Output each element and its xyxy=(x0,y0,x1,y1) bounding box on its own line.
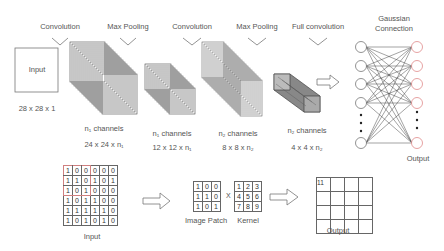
input-label: Input xyxy=(29,65,46,74)
ellipsis-dots-right xyxy=(416,111,418,129)
multiply-operator: X xyxy=(226,192,231,199)
image-patch-matrix: 1 0 0 1 1 0 1 0 1 xyxy=(193,181,221,212)
layer2-size-label: 12 x 12 x n₁ xyxy=(152,143,191,152)
arrow-right-icon xyxy=(270,189,298,205)
image-patch-label: Image Patch xyxy=(185,216,227,225)
network-edges xyxy=(366,47,412,143)
layer3-size-label: 8 x 8 x n₂ xyxy=(222,143,253,152)
operation-label-convolution-2: Convolution xyxy=(172,22,212,31)
output-nodes xyxy=(412,42,423,149)
layer3-channels-label: n₂ channels xyxy=(218,129,257,138)
operation-label-convolution-1: Convolution xyxy=(40,22,80,31)
arrow-right-icon xyxy=(143,193,170,209)
input-matrix: 1 0 0 0 0 0 1 1 0 1 0 1 1 0 1 0 0 0 1 0 … xyxy=(63,165,118,226)
feature-map-stack-3 xyxy=(202,42,262,116)
layer4-size-label: 4 x 4 x n₂ xyxy=(291,143,322,152)
gaussian-label-line2: Connection xyxy=(375,24,413,33)
input-nodes xyxy=(356,42,367,149)
kernel-matrix: 1 2 3 4 5 6 7 8 9 xyxy=(234,181,262,212)
layer1-size-label: 24 x 24 x n₁ xyxy=(84,140,123,149)
layer4-channels-label: n₂ channels xyxy=(287,126,326,135)
operation-label-max-pooling-1: Max Pooling xyxy=(107,22,148,31)
layer2-channels-label: n₁ channels xyxy=(153,129,192,138)
feature-map-stack-2 xyxy=(145,64,195,114)
operation-label-max-pooling-2: Max Pooling xyxy=(236,22,277,31)
bottom-output-label: Output xyxy=(327,226,350,235)
input-size-label: 28 x 28 x 1 xyxy=(19,104,56,113)
operation-label-full-convolution: Full convolution xyxy=(292,22,344,31)
kernel-label: Kernel xyxy=(237,216,259,225)
bottom-input-label: Input xyxy=(84,232,101,241)
gaussian-label-line1: Gaussian xyxy=(378,14,410,23)
feature-map-stack-1 xyxy=(70,42,137,114)
feature-map-stack-4 xyxy=(274,74,320,112)
ellipsis-dots-left xyxy=(360,114,362,132)
layer1-channels-label: n₁ channels xyxy=(85,124,124,133)
network-output-label: Output xyxy=(407,154,430,163)
arrow-right-icon xyxy=(317,75,339,89)
